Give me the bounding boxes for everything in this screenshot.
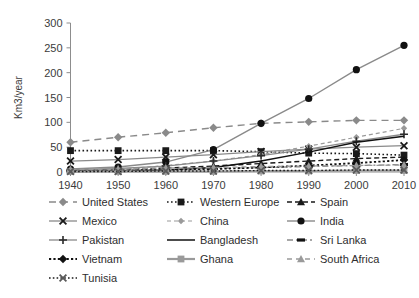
y-tick-label: 200 xyxy=(44,67,62,79)
legend-swatch-icon xyxy=(286,214,316,228)
legend-item-united-states[interactable]: United States xyxy=(48,193,166,211)
point-marker xyxy=(114,133,122,141)
legend-label: Western Europe xyxy=(200,196,279,208)
legend-label: Sri Lanka xyxy=(320,234,366,246)
y-tick-label: 150 xyxy=(44,92,62,104)
x-tick-label: 2010 xyxy=(392,179,416,191)
legend-label: United States xyxy=(82,196,148,208)
legend-item-vietnam[interactable]: Vietnam xyxy=(48,250,166,268)
point-marker xyxy=(305,95,312,102)
legend-item-india[interactable]: India xyxy=(286,212,410,230)
legend-label: South Africa xyxy=(320,253,379,265)
point-marker xyxy=(297,238,305,241)
legend-swatch-icon xyxy=(166,233,196,247)
x-tick-label: 1950 xyxy=(106,179,130,191)
point-marker xyxy=(67,147,74,154)
legend-swatch-icon xyxy=(166,252,196,266)
point-marker xyxy=(400,116,408,124)
point-marker xyxy=(115,147,122,154)
legend-swatch-icon xyxy=(48,233,78,247)
x-tick-label: 1970 xyxy=(201,179,225,191)
legend-swatch-icon xyxy=(166,214,196,228)
legend-swatch-icon xyxy=(286,252,316,266)
point-marker xyxy=(257,120,264,127)
chart-legend: United StatesWestern EuropeSpainMexicoCh… xyxy=(48,193,410,287)
legend-item-ghana[interactable]: Ghana xyxy=(166,250,286,268)
point-marker xyxy=(178,256,185,263)
legend-item-south-africa[interactable]: South Africa xyxy=(286,250,410,268)
legend-label: Mexico xyxy=(82,215,117,227)
x-tick-label: 1960 xyxy=(154,179,178,191)
legend-label: Pakistan xyxy=(82,234,124,246)
y-tick-label: 50 xyxy=(50,141,62,153)
point-marker xyxy=(353,66,360,73)
legend-item-bangladesh[interactable]: Bangladesh xyxy=(166,231,286,249)
legend-item-mexico[interactable]: Mexico xyxy=(48,212,166,230)
legend-label: Spain xyxy=(320,196,348,208)
point-marker xyxy=(66,138,74,146)
legend-label: Vietnam xyxy=(82,253,122,265)
legend-swatch-icon xyxy=(286,233,316,247)
legend-label: China xyxy=(200,215,229,227)
point-marker xyxy=(162,129,170,137)
point-marker xyxy=(162,147,169,154)
x-tick-label: 1940 xyxy=(58,179,82,191)
point-marker xyxy=(297,217,304,224)
y-axis-title: Km3/year xyxy=(13,75,24,118)
legend-swatch-icon xyxy=(48,252,78,266)
point-marker xyxy=(352,116,360,124)
point-marker xyxy=(59,198,67,206)
legend-swatch-icon xyxy=(48,271,78,285)
point-marker xyxy=(209,124,217,132)
legend-item-pakistan[interactable]: Pakistan xyxy=(48,231,166,249)
y-tick-label: 0 xyxy=(56,166,62,178)
point-marker xyxy=(305,118,313,126)
legend-label: Ghana xyxy=(200,253,233,265)
y-tick-label: 250 xyxy=(44,42,62,54)
legend-item-spain[interactable]: Spain xyxy=(286,193,410,211)
legend-label: India xyxy=(320,215,344,227)
point-marker xyxy=(178,199,185,206)
point-marker xyxy=(59,255,67,263)
point-marker xyxy=(400,42,407,49)
y-tick-label: 300 xyxy=(44,17,62,29)
legend-label: Tunisia xyxy=(82,272,117,284)
x-tick-label: 1980 xyxy=(249,179,273,191)
point-marker xyxy=(178,218,184,224)
legend-swatch-icon xyxy=(48,214,78,228)
legend-item-sri-lanka[interactable]: Sri Lanka xyxy=(286,231,410,249)
legend-swatch-icon xyxy=(286,195,316,209)
y-tick-label: 100 xyxy=(44,116,62,128)
x-tick-label: 1990 xyxy=(296,179,320,191)
legend-swatch-icon xyxy=(166,195,196,209)
legend-swatch-icon xyxy=(48,195,78,209)
x-tick-label: 2000 xyxy=(344,179,368,191)
legend-item-tunisia[interactable]: Tunisia xyxy=(48,269,166,287)
legend-label: Bangladesh xyxy=(200,234,258,246)
chart-figure: 0501001502002503001940195019601970198019… xyxy=(0,0,419,298)
point-marker xyxy=(59,236,67,244)
legend-item-china[interactable]: China xyxy=(166,212,286,230)
legend-item-western-europe[interactable]: Western Europe xyxy=(166,193,286,211)
point-marker xyxy=(210,146,217,153)
